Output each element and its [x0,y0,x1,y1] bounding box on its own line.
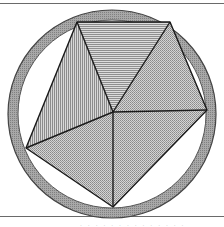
cut-off-caption: . . . . . . . . . . . . . . [80,220,220,226]
geometry-diagram [0,0,224,227]
